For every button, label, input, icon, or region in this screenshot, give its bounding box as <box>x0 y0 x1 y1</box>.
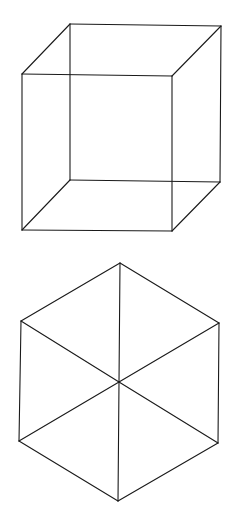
hexagon-cube-edge-upper_left-top <box>21 263 120 321</box>
hexagon-cube-edge-top-upper_right <box>120 263 219 323</box>
hexagon-cube-edge-upper_right-lower_right <box>218 323 219 443</box>
hexagon-cube-edge-upper_right-center <box>119 323 219 382</box>
necker-cube-edge-back_top_left-back_top_right <box>70 24 221 26</box>
hexagon-cube-edge-center-lower_right <box>119 382 218 443</box>
necker-cube-edge-front_top_right-back_top_right <box>172 26 221 76</box>
hexagon-cube-edge-center-lower_left <box>19 382 119 441</box>
necker-cube-edge-front_bottom_right-back_bottom_right <box>172 182 220 231</box>
hexagon-cube-edge-upper_left-center <box>21 321 119 382</box>
diagram-canvas <box>0 0 234 529</box>
necker-cube-figure <box>22 24 221 231</box>
hexagon-cube-edge-lower_left-upper_left <box>19 321 21 441</box>
necker-cube-edge-front_bottom_left-back_bottom_left <box>22 180 70 230</box>
hexagon-cube-edge-center-bottom <box>118 382 119 501</box>
necker-cube-edge-front_bottom_right-front_bottom_left <box>22 230 172 231</box>
necker-cube-edge-front_top_left-back_top_left <box>22 24 70 74</box>
hexagon-cube-edge-bottom-lower_left <box>19 441 118 501</box>
necker-cube-edge-back_top_right-back_bottom_right <box>220 26 221 182</box>
hexagon-cube-edge-lower_right-bottom <box>118 443 218 501</box>
necker-cube-edge-back_bottom_right-back_bottom_left <box>70 180 220 182</box>
hexagon-cube-edge-top-center <box>119 263 120 382</box>
hexagon-cube-figure <box>19 263 219 501</box>
necker-cube-edge-front_top_left-front_top_right <box>22 74 172 76</box>
